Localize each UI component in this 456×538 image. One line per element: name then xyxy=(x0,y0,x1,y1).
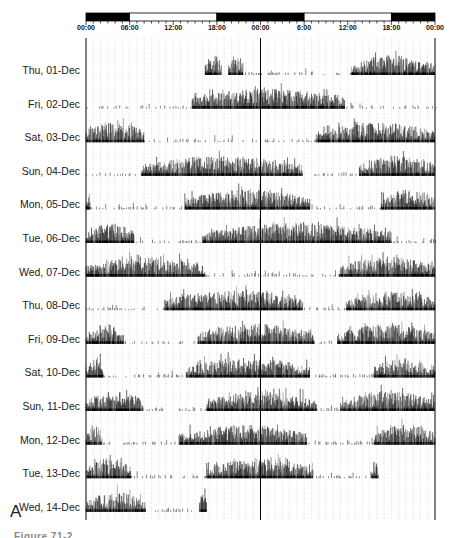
day-row-label: Mon, 05-Dec xyxy=(20,198,80,210)
day-row-label: Wed, 07-Dec xyxy=(19,266,80,278)
day-row-label: Thu, 01-Dec xyxy=(22,64,80,76)
time-tick-label: 12:00 xyxy=(339,24,357,31)
day-row-label: Sat, 03-Dec xyxy=(25,131,80,143)
day-row xyxy=(87,83,436,108)
panel-letter: A xyxy=(10,502,21,522)
day-row-label: Sat, 10-Dec xyxy=(25,366,80,378)
time-tick-label: 6:00 xyxy=(297,24,311,31)
light-dark-bar xyxy=(86,13,435,21)
time-tick-label: 00:00 xyxy=(77,24,95,31)
day-row-label: Thu, 08-Dec xyxy=(22,299,80,311)
day-row-label: Sun, 11-Dec xyxy=(22,400,80,412)
day-row-label: Sun, 04-Dec xyxy=(22,165,80,177)
time-tick-label: 18:00 xyxy=(208,24,226,31)
day-row xyxy=(86,485,207,512)
time-tick-label: 00:00 xyxy=(426,24,444,31)
dark-period-segment xyxy=(217,13,304,21)
day-row-label: Tue, 06-Dec xyxy=(23,232,80,244)
light-period-segment xyxy=(304,13,391,21)
dark-period-segment xyxy=(391,13,435,21)
day-row xyxy=(205,51,435,75)
day-row-label: Mon, 12-Dec xyxy=(20,434,80,446)
time-tick-label: 06:00 xyxy=(121,24,139,31)
day-row-label: Wed, 14-Dec xyxy=(19,501,80,513)
figure-caption: Figure 71-2 xyxy=(14,531,73,538)
time-tick-label: 18:00 xyxy=(382,24,400,31)
day-row-label: Fri, 09-Dec xyxy=(28,333,80,345)
light-period-segment xyxy=(130,13,217,21)
day-row-label: Fri, 02-Dec xyxy=(28,98,80,110)
dark-period-segment xyxy=(86,13,130,21)
time-tick-label: 00:00 xyxy=(252,24,270,31)
plot-axes xyxy=(86,38,435,520)
day-row-label: Tue, 13-Dec xyxy=(23,467,80,479)
time-tick-label: 12:00 xyxy=(164,24,182,31)
